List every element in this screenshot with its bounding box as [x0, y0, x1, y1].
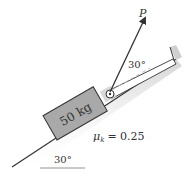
incline-surface — [12, 59, 182, 178]
incline-end-stop — [170, 45, 182, 60]
svg-text:μk= 0.25: μk= 0.25 — [93, 130, 145, 144]
mu-subscript: k — [100, 136, 104, 144]
mu-value: = 0.25 — [107, 130, 144, 143]
incline-angle-label: 30° — [54, 154, 72, 165]
force-label: P — [138, 7, 147, 20]
incline-diagram: 50 kg P 30° μk= 0.25 30° — [0, 0, 195, 182]
force-angle-label: 30° — [128, 59, 146, 70]
mu-symbol: μ — [93, 130, 100, 143]
friction-label: μk= 0.25 — [93, 130, 145, 144]
